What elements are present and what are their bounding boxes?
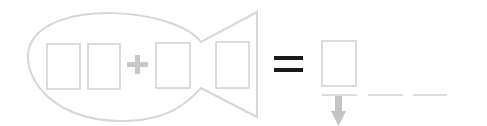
addend-box-1[interactable] [156, 43, 190, 88]
arrow-down-icon [331, 96, 346, 126]
equals-icon [274, 56, 303, 72]
addend-box-2[interactable] [216, 42, 249, 88]
answer-box[interactable] [322, 41, 356, 86]
plus-icon [127, 55, 148, 74]
digit-box-2[interactable] [88, 44, 120, 89]
digit-box-1[interactable] [47, 44, 80, 89]
fish-puzzle [0, 0, 487, 126]
